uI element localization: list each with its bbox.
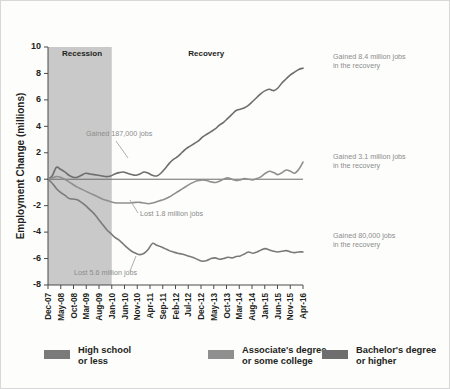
y-tick-label: -2	[33, 200, 41, 210]
y-tick-label: 8	[36, 68, 41, 78]
x-tick-label: Nov-15	[286, 293, 295, 321]
x-tick-label: Nov-10	[133, 293, 142, 321]
x-tick-label: Jun-10	[121, 293, 130, 320]
y-tick-label: -4	[33, 226, 41, 236]
legend-swatch-associates-degree-or-some-college	[208, 350, 234, 359]
legend-label-high-school-or-less: High schoolor less	[78, 345, 131, 366]
band-label-recession: Recession	[62, 49, 102, 58]
x-tick-label: Sep-11	[159, 293, 168, 320]
x-tick-label: May-13	[210, 293, 219, 321]
y-axis-title: Employment Change (millions)	[15, 93, 26, 240]
x-tick-label: Jan-15	[261, 293, 270, 319]
x-tick-label: May-08	[57, 293, 66, 321]
x-tick-label: Jul-12	[184, 293, 193, 317]
annotation-lost-1-8-million-jobs: Lost 1.8 million jobs	[140, 209, 204, 218]
y-tick-label: 4	[36, 121, 41, 131]
employment-change-chart-figure: RecessionRecovery Gained 187,000 jobsLos…	[0, 0, 450, 389]
y-tick-label: -6	[33, 253, 41, 263]
x-tick-label: Dec-12	[197, 293, 206, 320]
y-axis-title-text: Employment Change (millions)	[15, 93, 26, 240]
x-tick-label: Apr-16	[299, 293, 308, 319]
annotation-gained-8-4-million-jobs: Gained 8.4 million jobsin the recovery	[333, 52, 406, 70]
annotation-gained-3-1-million-jobs: Gained 3.1 million jobsin the recovery	[333, 152, 406, 170]
y-tick-label: 10	[31, 41, 41, 51]
chart-annotations: Gained 187,000 jobsLost 1.8 million jobs…	[74, 52, 406, 277]
chart-legend: High schoolor lessAssociate's degreeor s…	[44, 345, 436, 366]
x-tick-label: Feb-12	[172, 293, 181, 320]
x-tick-label: Aug-14	[248, 293, 257, 321]
x-tick-label: Jun-15	[274, 293, 283, 320]
x-tick-label: Oct-13	[223, 293, 232, 319]
legend-swatch-high-school-or-less	[44, 350, 70, 359]
x-tick-label: Aug-09	[95, 293, 104, 321]
legend-label-associates-degree-or-some-college: Associate's degreeor some college	[242, 345, 326, 366]
x-tick-label: Mar-14	[235, 293, 244, 320]
annotation-gained-80000-jobs: Gained 80,000 jobsin the recovery	[333, 231, 396, 249]
y-tick-label: 0	[36, 174, 41, 184]
x-tick-label: Oct-08	[70, 293, 79, 319]
y-tick-label: -8	[33, 279, 41, 289]
x-tick-label: Mar-09	[82, 293, 91, 320]
annotation-lost-5-6-million-jobs: Lost 5.6 million jobs	[74, 268, 138, 277]
x-axis-ticks: Dec-07May-08Oct-08Mar-09Aug-09Jan-10Jun-…	[44, 285, 308, 321]
legend-swatch-bachelors-degree-or-higher	[322, 350, 348, 359]
annotation-gained-187000-jobs: Gained 187,000 jobs	[86, 129, 153, 138]
period-bands: RecessionRecovery	[48, 47, 225, 285]
x-tick-label: Apr-11	[146, 293, 155, 319]
annotation-gained-187000-jobs-leader	[116, 141, 128, 158]
y-tick-label: 2	[36, 147, 41, 157]
x-tick-label: Jan-10	[108, 293, 117, 319]
y-axis-ticks: 1086420-2-4-6-8	[31, 41, 48, 289]
chart-canvas: RecessionRecovery Gained 187,000 jobsLos…	[0, 0, 450, 389]
y-tick-label: 6	[36, 94, 41, 104]
band-label-recovery: Recovery	[188, 49, 225, 58]
legend-label-bachelors-degree-or-higher: Bachelor's degreeor higher	[356, 345, 436, 366]
recession-shaded-region	[48, 47, 112, 285]
x-tick-label: Dec-07	[44, 293, 53, 320]
